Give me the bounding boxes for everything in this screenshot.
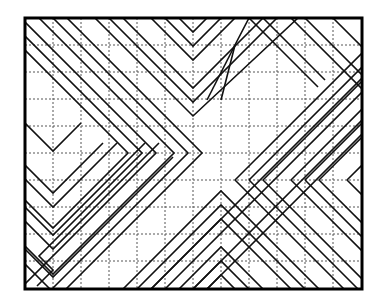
stripe-line: [263, 18, 325, 80]
stripe-line: [25, 157, 173, 277]
stripe-line: [179, 18, 207, 32]
stripe-line: [207, 134, 362, 289]
stripe-line: [347, 165, 362, 180]
stripe-line: [25, 36, 142, 286]
stripe-line: [291, 180, 362, 251]
stripe-line: [165, 92, 362, 289]
stripe-line: [95, 18, 298, 116]
stripe-line: [333, 18, 362, 47]
stripe-line: [263, 81, 362, 180]
stripe-pattern-diagram: [0, 0, 382, 307]
stripe-line: [25, 143, 145, 235]
stripe-line: [263, 180, 362, 279]
stripe-line: [291, 18, 362, 89]
stripe-line: [347, 180, 362, 195]
stripe-line: [305, 180, 362, 237]
stripe-line: [249, 18, 318, 87]
